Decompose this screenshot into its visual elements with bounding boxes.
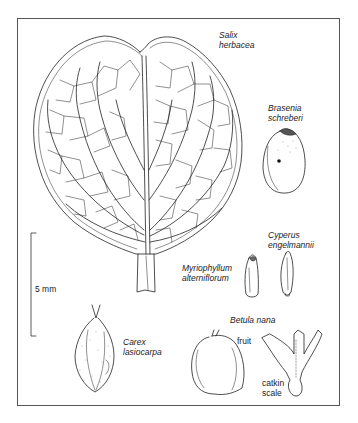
cyperus-achene-drawing — [281, 252, 293, 297]
label-betula-nana: Betula nana — [230, 315, 275, 325]
illustration-canvas — [0, 0, 358, 423]
label-carex-lasiocarpa: Carex lasiocarpa — [123, 337, 162, 357]
label-salix-herbacea: Salix herbacea — [219, 30, 254, 50]
label-brasenia-schreberi: Brasenia schreberi — [268, 103, 303, 123]
label-fruit: fruit — [237, 336, 251, 346]
label-cyperus-engelmannii: Cyperus engelmannii — [268, 230, 314, 250]
carex-utricle-drawing — [75, 305, 114, 392]
brasenia-seed-drawing — [263, 129, 305, 193]
label-myriophyllum-alterniflorum: Myriophyllum alterniflorum — [182, 263, 232, 283]
label-catkin-scale: catkin scale — [262, 378, 284, 398]
scale-bar-label: 5 mm — [35, 284, 56, 294]
myriophyllum-fruit-drawing — [245, 255, 258, 297]
salix-leaf-drawing — [34, 36, 242, 292]
